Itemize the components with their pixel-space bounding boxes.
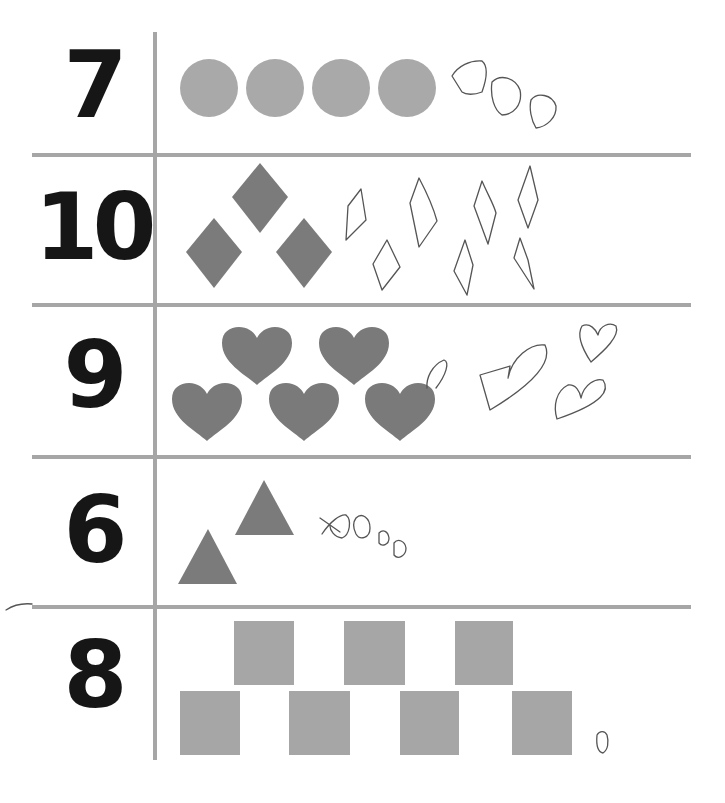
drawn-mark-icon [597,732,608,753]
stray-pencil-mark [6,604,32,610]
heart-icon [222,327,292,385]
drawn-diamond-icon [454,240,473,295]
drawn-heart-icon [480,345,547,410]
drawn-hearts [427,324,617,419]
row-triangles [178,480,294,584]
row-diamonds [186,163,332,288]
drawn-diamond-icon [373,240,400,290]
heart-icon [172,383,242,441]
drawn-x-stroke [320,518,340,532]
circle-icon [312,59,370,117]
row-circles [180,59,436,117]
heart-icon [319,327,389,385]
row-squares [180,621,572,755]
row-hearts [172,327,435,441]
drawn-heart-icon [427,360,447,388]
drawn-circle-icon [354,516,370,538]
square-icon [180,691,240,755]
shapes-layer [0,0,725,803]
drawn-circle-icon [530,95,556,128]
drawn-circle-icon [322,515,349,538]
square-icon [455,621,513,685]
drawn-squares [597,732,608,753]
drawn-circle-icon [379,531,389,545]
drawn-circle-icon [394,541,406,558]
drawn-diamond-icon [514,238,534,289]
square-icon [289,691,350,755]
drawn-circles [452,61,556,128]
heart-icon [269,383,339,441]
circle-icon [378,59,436,117]
diamond-icon [232,163,288,233]
drawn-heart-icon [580,324,617,362]
triangle-icon [178,529,237,584]
counting-worksheet: 7 10 9 6 8 [0,0,725,803]
diamond-icon [186,218,242,288]
drawn-circle-icon [491,78,520,115]
heart-icon [365,383,435,441]
drawn-circle-icon [452,61,486,94]
diamond-icon [276,218,332,288]
triangle-icon [235,480,294,535]
drawn-diamond-icon [518,166,538,228]
drawn-heart-icon [555,380,605,419]
square-icon [344,621,405,685]
square-icon [400,691,459,755]
drawn-diamond-icon [410,178,437,247]
square-icon [512,691,572,755]
drawn-marks [320,515,406,557]
drawn-diamond-icon [346,189,366,240]
drawn-diamond-icon [474,181,496,244]
circle-icon [180,59,238,117]
drawn-diamonds [346,166,538,295]
circle-icon [246,59,304,117]
square-icon [234,621,294,685]
